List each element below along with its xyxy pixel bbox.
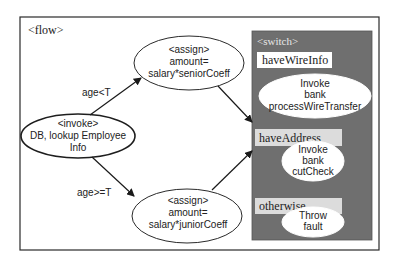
assign-junior-line2: amount= bbox=[168, 207, 207, 218]
edge-label-junior-condition: age>=T bbox=[77, 187, 111, 198]
action-process-wire-transfer-line3: processWireTransfer bbox=[269, 101, 362, 112]
action-cut-check-line2: bank bbox=[302, 155, 325, 166]
invoke-line3: Info bbox=[70, 142, 87, 153]
action-throw-fault-line2: fault bbox=[304, 221, 323, 232]
invoke-line2: DB, lookup Employee bbox=[30, 130, 127, 141]
switch-label: <switch> bbox=[257, 35, 298, 47]
assign-junior-line3: salary*juniorCoeff bbox=[149, 219, 228, 230]
action-process-wire-transfer-line2: bank bbox=[304, 89, 327, 100]
assign-senior-line2: amount= bbox=[169, 56, 208, 67]
action-throw-fault-line1: Throw bbox=[299, 210, 328, 221]
edge-junior-to-switch bbox=[212, 151, 252, 190]
flow-label: <flow> bbox=[28, 23, 64, 37]
action-process-wire-transfer-line1: Invoke bbox=[300, 78, 330, 89]
action-cut-check-line1: Invoke bbox=[298, 144, 328, 155]
assign-junior-line1: <assign> bbox=[168, 195, 209, 206]
assign-senior-line1: <assign> bbox=[169, 44, 210, 55]
flow-diagram: <flow> <switch> haveWireInfo Invoke bank… bbox=[0, 0, 394, 266]
condition-have-wire-info-label: haveWireInfo bbox=[262, 53, 328, 67]
assign-senior-line3: salary*seniorCoeff bbox=[148, 68, 230, 79]
action-cut-check-line3: cutCheck bbox=[292, 166, 335, 177]
invoke-line1: <invoke> bbox=[58, 118, 99, 129]
edge-label-senior-condition: age<T bbox=[82, 87, 111, 98]
edge-senior-to-switch bbox=[218, 86, 252, 122]
